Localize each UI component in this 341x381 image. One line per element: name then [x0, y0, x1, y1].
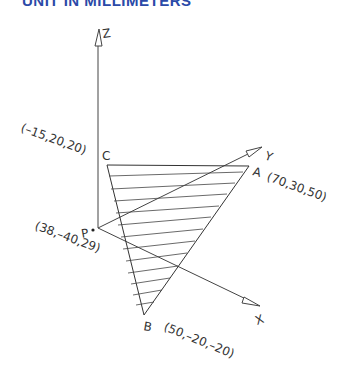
z-axis-label: Z	[101, 26, 111, 41]
coordinate-diagram: Z Y X C (–15,20,20)	[0, 0, 341, 381]
point-p-marker	[91, 228, 94, 231]
point-c-coords: (–15,20,20)	[19, 121, 88, 158]
point-a-coords: (70,30,50)	[265, 170, 329, 205]
point-b-label: B	[142, 319, 153, 334]
x-axis-label: X	[253, 312, 266, 328]
x-axis: X	[98, 228, 266, 328]
z-axis-arrowhead-icon	[95, 29, 102, 46]
y-axis-arrowhead-icon	[246, 147, 262, 157]
hatch-pattern	[109, 172, 243, 305]
point-a-label: A	[251, 164, 263, 180]
triangle-abc	[107, 165, 249, 315]
point-b-coords: (50,–20,–20)	[162, 320, 237, 361]
y-axis: Y	[98, 147, 275, 228]
x-axis-arrowhead-icon	[242, 297, 260, 306]
point-p-coords: (38,–40,29)	[33, 219, 102, 256]
z-axis: Z	[95, 26, 112, 228]
y-axis-label: Y	[262, 148, 275, 164]
point-c-label: C	[102, 149, 110, 163]
